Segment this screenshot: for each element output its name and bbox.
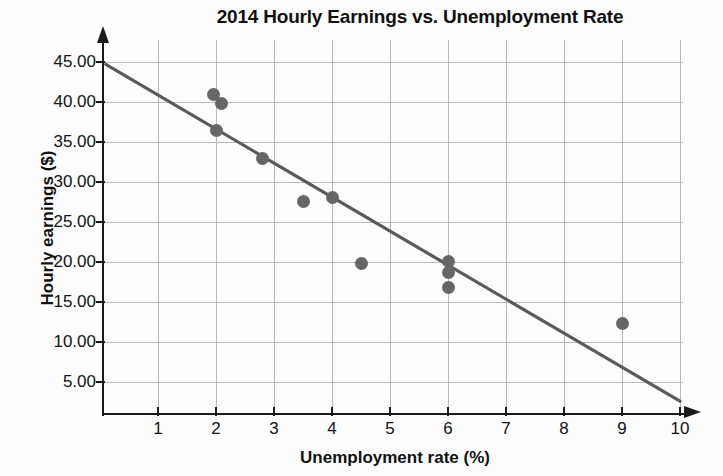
x-tick-label: 2 — [196, 419, 236, 439]
x-tick-label: 3 — [254, 419, 294, 439]
y-tick-label: 15.00 — [10, 292, 96, 312]
y-tick-label: 20.00 — [10, 252, 96, 272]
tick-labels-layer: 5.0010.0015.0020.0025.0030.0035.0040.004… — [0, 0, 723, 476]
y-tick-label: 35.00 — [10, 132, 96, 152]
y-tick-label: 10.00 — [10, 332, 96, 352]
x-tick-label: 10 — [660, 419, 700, 439]
y-tick-label: 25.00 — [10, 212, 96, 232]
x-tick-label: 9 — [602, 419, 642, 439]
y-tick-label: 5.00 — [10, 372, 96, 392]
x-tick-label: 1 — [138, 419, 178, 439]
x-tick-label: 8 — [544, 419, 584, 439]
x-tick-label: 6 — [428, 419, 468, 439]
x-tick-label: 5 — [370, 419, 410, 439]
y-tick-label: 40.00 — [10, 92, 96, 112]
y-tick-label: 30.00 — [10, 172, 96, 192]
x-tick-label: 4 — [312, 419, 352, 439]
y-tick-label: 45.00 — [10, 52, 96, 72]
x-tick-label: 7 — [486, 419, 526, 439]
scatter-chart: 2014 Hourly Earnings vs. Unemployment Ra… — [0, 0, 723, 476]
